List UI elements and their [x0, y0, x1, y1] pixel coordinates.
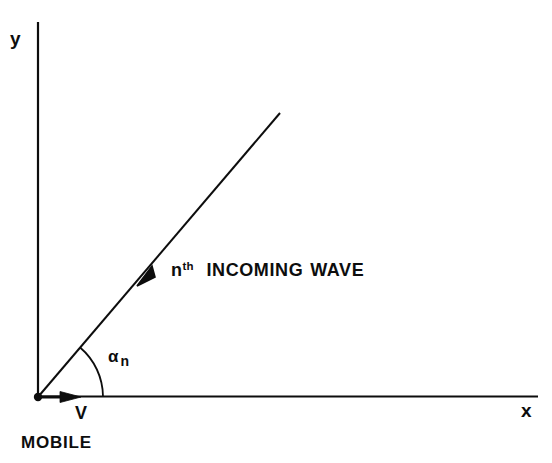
- figure-canvas: y x nthINCOMINGWAVE αn V MOBILE: [0, 0, 552, 463]
- wave-label-ordinal-base: n: [171, 260, 183, 280]
- origin-dot: [34, 393, 42, 401]
- incoming-wave-ray: [38, 113, 280, 397]
- wave-label-word-incoming: INCOMING: [206, 260, 303, 280]
- wave-label-ordinal-suffix: th: [183, 260, 194, 272]
- x-axis-label: x: [521, 401, 532, 420]
- angle-arc: [80, 348, 103, 397]
- diagram-vector-layer: [0, 0, 552, 463]
- velocity-vector-arrowhead: [60, 392, 81, 403]
- angle-symbol-subscript: n: [120, 353, 129, 369]
- angle-symbol-alpha: α: [108, 347, 118, 366]
- wave-label-word-wave: WAVE: [310, 260, 364, 280]
- incoming-wave-label: nthINCOMINGWAVE: [171, 261, 364, 279]
- y-axis-label: y: [10, 29, 21, 48]
- mobile-label: MOBILE: [21, 434, 92, 451]
- angle-label: αn: [108, 347, 129, 368]
- velocity-label: V: [75, 404, 87, 422]
